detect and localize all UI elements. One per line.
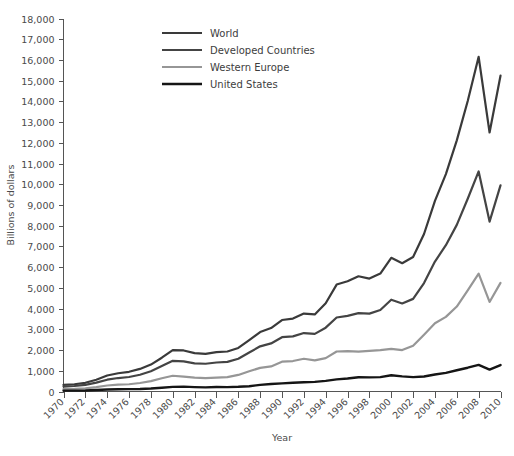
x-tick-label: 2006 — [434, 396, 459, 421]
x-axis-ticks: 1970197219741976197819801982198419861988… — [41, 392, 503, 422]
x-tick-label: 2002 — [390, 396, 415, 421]
chart-container: 01,0002,0003,0004,0005,0006,0007,0008,00… — [0, 0, 514, 456]
y-tick-label: 14,000 — [21, 96, 54, 107]
y-tick-label: 5,000 — [27, 283, 54, 294]
y-tick-label: 11,000 — [21, 159, 54, 170]
x-tick-label: 2004 — [412, 396, 437, 421]
y-tick-label: 9,000 — [27, 200, 54, 211]
line-chart: 01,0002,0003,0004,0005,0006,0007,0008,00… — [0, 0, 514, 456]
x-tick-label: 1984 — [193, 396, 218, 421]
y-tick-label: 16,000 — [21, 55, 54, 66]
x-tick-label: 1998 — [346, 396, 371, 421]
x-tick-label: 1980 — [150, 396, 175, 421]
x-tick-label: 1992 — [281, 396, 306, 421]
legend-label-western-europe: Western Europe — [210, 62, 289, 73]
y-tick-label: 17,000 — [21, 34, 54, 45]
x-tick-label: 1970 — [41, 396, 66, 421]
y-tick-label: 10,000 — [21, 179, 54, 190]
x-tick-label: 1978 — [128, 396, 153, 421]
legend: WorldDeveloped CountriesWestern EuropeUn… — [162, 28, 315, 90]
x-tick-label: 2008 — [456, 396, 481, 421]
y-tick-label: 13,000 — [21, 117, 54, 128]
y-tick-label: 3,000 — [27, 324, 54, 335]
y-tick-label: 18,000 — [21, 14, 54, 25]
y-tick-label: 7,000 — [27, 241, 54, 252]
y-tick-label: 0 — [48, 387, 54, 398]
y-tick-label: 1,000 — [27, 366, 54, 377]
series-line-world — [64, 57, 501, 385]
y-tick-label: 2,000 — [27, 345, 54, 356]
series-group — [64, 57, 501, 391]
x-tick-label: 1988 — [237, 396, 262, 421]
y-tick-label: 4,000 — [27, 304, 54, 315]
x-tick-label: 1982 — [172, 396, 197, 421]
x-tick-label: 1986 — [215, 396, 240, 421]
x-tick-label: 1990 — [259, 396, 284, 421]
y-tick-label: 8,000 — [27, 221, 54, 232]
y-tick-label: 6,000 — [27, 262, 54, 273]
x-tick-label: 1972 — [62, 396, 87, 421]
x-tick-label: 1974 — [84, 396, 109, 421]
legend-label-united-states: United States — [210, 79, 278, 90]
legend-label-world: World — [210, 28, 239, 39]
y-tick-label: 12,000 — [21, 138, 54, 149]
y-tick-label: 15,000 — [21, 76, 54, 87]
y-axis-ticks: 01,0002,0003,0004,0005,0006,0007,0008,00… — [21, 14, 63, 398]
x-tick-label: 1996 — [325, 396, 350, 421]
x-tick-label: 1994 — [303, 396, 328, 421]
y-axis-title: Billions of dollars — [5, 165, 16, 246]
x-tick-label: 2000 — [368, 396, 393, 421]
x-tick-label: 2010 — [478, 396, 503, 421]
x-tick-label: 1976 — [106, 396, 131, 421]
legend-label-developed-countries: Developed Countries — [210, 45, 315, 56]
x-axis-title: Year — [271, 432, 292, 443]
